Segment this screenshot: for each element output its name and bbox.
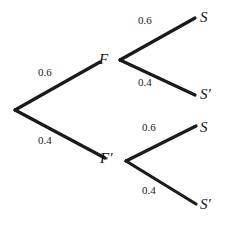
probability-label-root-to-f-prime: 0.4 bbox=[38, 135, 52, 146]
probability-label-f-prime-to-s: 0.6 bbox=[142, 122, 156, 133]
probability-label-f-prime-to-s-prime: 0.4 bbox=[142, 185, 156, 196]
leaf-label-s-prime-lower: S′ bbox=[200, 197, 211, 212]
leaf-label-s-prime-upper: S′ bbox=[200, 87, 211, 102]
leaf-label-s-upper: S bbox=[200, 10, 208, 25]
edge-root-to-f-prime bbox=[15, 110, 105, 158]
edge-f-to-leaf-s bbox=[120, 18, 195, 60]
edge-f-prime-to-leaf-s bbox=[126, 126, 196, 161]
tree-edges-group bbox=[0, 0, 226, 229]
probability-label-f-to-s: 0.6 bbox=[138, 15, 152, 26]
leaf-label-s-lower: S bbox=[200, 120, 208, 135]
probability-label-f-to-s-prime: 0.4 bbox=[138, 77, 152, 88]
edge-f-prime-to-leaf-s-prime bbox=[126, 161, 196, 204]
edge-root-to-f bbox=[15, 62, 100, 110]
probability-label-root-to-f: 0.6 bbox=[38, 67, 52, 78]
node-label-f-prime: F′ bbox=[100, 151, 112, 166]
probability-tree-diagram: F F′ S S′ S S′ 0.6 0.4 0.6 0.4 0.6 0.4 bbox=[0, 0, 226, 229]
node-label-f: F bbox=[99, 52, 108, 67]
edge-f-to-leaf-s-prime bbox=[120, 60, 195, 95]
